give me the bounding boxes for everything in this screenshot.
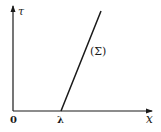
intercept-label: λ [57,114,64,125]
diagram: τ x 0 λ (Σ) [0,0,161,132]
line-label: (Σ) [90,45,106,58]
vertical-axis-label: τ [18,5,25,18]
horizontal-axis-label: x [146,112,153,126]
origin-label: 0 [10,114,17,125]
sigma-line [61,11,101,111]
